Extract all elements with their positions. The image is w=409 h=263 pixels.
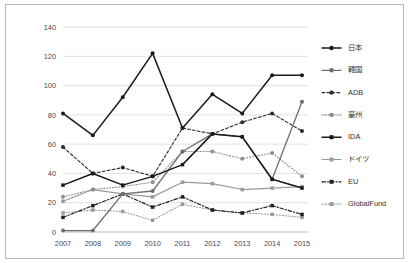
data-point [91, 133, 95, 137]
y-tick-label: 20 [48, 198, 56, 207]
data-point [151, 189, 155, 193]
legend-marker [329, 90, 333, 94]
data-point [210, 92, 214, 96]
legend-marker [329, 113, 333, 117]
data-point [240, 157, 244, 161]
series-ADB [61, 111, 304, 178]
legend-item-日本[interactable]: 日本 [322, 43, 363, 52]
legend-label: 豪州 [348, 110, 362, 119]
data-point [181, 149, 185, 153]
data-point [151, 205, 155, 209]
series-line [63, 134, 302, 188]
data-point [270, 111, 274, 115]
data-point [151, 180, 155, 184]
legend-item-ドイツ[interactable]: ドイツ [322, 154, 369, 163]
x-tick-label: 2008 [85, 239, 101, 248]
legend-label: ADB [348, 88, 363, 97]
data-point [61, 145, 65, 149]
legend-item-韓国[interactable]: 韓国 [322, 65, 362, 74]
data-point [91, 172, 95, 176]
y-tick-label: 140 [44, 23, 56, 32]
y-tick-label: 0 [52, 228, 56, 237]
line-chart: 020406080100120140 200720082009201020112… [6, 5, 405, 258]
data-point [210, 149, 214, 153]
data-point [121, 166, 125, 170]
data-point [121, 183, 125, 187]
series-日本 [61, 51, 304, 137]
legend-marker [329, 68, 333, 72]
legend-item-EU[interactable]: EU [322, 177, 358, 186]
y-tick-label: 60 [48, 140, 56, 149]
data-point [241, 135, 245, 139]
data-point [121, 95, 125, 99]
data-point [91, 188, 95, 192]
legend-item-GlobalFund[interactable]: GlobalFund [322, 199, 386, 208]
series-ドイツ [61, 180, 304, 203]
data-point [240, 120, 244, 124]
y-tick-label: 120 [44, 52, 56, 61]
screenshot-root: 020406080100120140 200720082009201020112… [0, 0, 409, 263]
data-point [300, 100, 304, 104]
data-point [270, 73, 274, 77]
data-point [300, 213, 304, 217]
y-axis-tick-labels: 020406080100120140 [44, 23, 56, 237]
x-axis-tick-labels: 200720082009201020112012201320142015 [55, 239, 310, 248]
data-point [121, 192, 125, 196]
y-tick-label: 40 [48, 169, 56, 178]
x-tick-label: 2011 [175, 239, 191, 248]
data-point [300, 186, 304, 190]
data-point [151, 175, 155, 179]
legend-marker [330, 135, 334, 139]
data-point [300, 73, 304, 77]
data-point [151, 51, 155, 55]
data-point [151, 195, 155, 199]
x-tick-label: 2015 [294, 239, 310, 248]
chart-frame: 020406080100120140 200720082009201020112… [5, 4, 404, 259]
legend-label: GlobalFund [348, 199, 386, 208]
x-tick-label: 2012 [204, 239, 220, 248]
chart-plot-area: 020406080100120140 200720082009201020112… [6, 5, 403, 258]
data-point [241, 188, 245, 192]
data-point [270, 186, 274, 190]
legend-marker [329, 46, 333, 50]
legend-item-ADB[interactable]: ADB [322, 88, 363, 97]
legend-label: ドイツ [348, 154, 369, 163]
data-point [181, 195, 185, 199]
data-point [300, 129, 304, 133]
data-point [211, 182, 215, 186]
legend-label: EU [348, 177, 358, 186]
data-point [91, 208, 95, 212]
data-point [61, 183, 65, 187]
legend-marker [330, 158, 334, 162]
data-series-group [61, 51, 304, 232]
data-point [61, 229, 65, 233]
x-tick-label: 2010 [144, 239, 160, 248]
series-GlobalFund [61, 202, 304, 222]
data-point [61, 216, 65, 220]
legend-marker [330, 180, 334, 184]
data-point [151, 219, 155, 223]
data-point [300, 174, 304, 178]
x-tick-label: 2014 [264, 239, 280, 248]
data-point [270, 178, 274, 182]
legend-label: 韓国 [348, 65, 362, 74]
data-point [61, 211, 65, 215]
x-tick-label: 2009 [115, 239, 131, 248]
series-豪州 [61, 149, 304, 198]
legend-label: 日本 [348, 43, 363, 52]
x-tick-label: 2007 [55, 239, 71, 248]
data-point [270, 204, 274, 208]
data-point [211, 132, 215, 136]
data-point [211, 208, 215, 212]
legend-item-IDA[interactable]: IDA [322, 132, 360, 141]
y-tick-label: 80 [48, 111, 56, 120]
legend-item-豪州[interactable]: 豪州 [322, 110, 362, 119]
data-point [181, 126, 185, 130]
legend-marker [330, 202, 334, 206]
gridlines [63, 27, 308, 232]
y-tick-label: 100 [44, 81, 56, 90]
data-point [241, 211, 245, 215]
legend-label: IDA [348, 132, 360, 141]
data-point [91, 204, 95, 208]
chart-legend: 日本韓国ADB豪州IDAドイツEUGlobalFund [322, 43, 386, 208]
